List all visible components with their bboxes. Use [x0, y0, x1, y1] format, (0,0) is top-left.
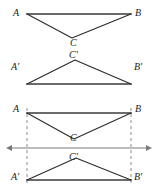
label-A-bottom: A — [13, 104, 19, 114]
triangle-ABC-legs — [27, 14, 131, 38]
triangle-A-prime-B-prime-C-prime-legs — [27, 60, 131, 84]
label-A-prime-middle: A' — [11, 62, 19, 72]
triangle-A-prime-B-prime-C-prime-legs-bottom — [27, 158, 131, 180]
label-B-bottom: B — [135, 104, 141, 114]
triangle-ABC-legs-bottom — [27, 113, 131, 139]
label-B-prime-bottom: B' — [134, 172, 142, 182]
label-B-prime-middle: B' — [134, 62, 142, 72]
label-C-bottom: C — [70, 133, 77, 143]
geometry-figure: A B C C' A' B' A B C C' A' B' — [0, 0, 157, 192]
top-panel — [27, 14, 131, 38]
label-C-top: C — [70, 38, 77, 48]
label-A-prime-bottom: A' — [11, 172, 19, 182]
bottom-panel — [12, 108, 146, 186]
label-A-top: A — [13, 8, 19, 18]
label-C-prime-middle: C' — [69, 50, 78, 60]
label-C-prime-bottom: C' — [69, 152, 78, 162]
middle-panel — [27, 60, 131, 84]
figure-canvas — [0, 0, 157, 192]
label-B-top: B — [135, 8, 141, 18]
